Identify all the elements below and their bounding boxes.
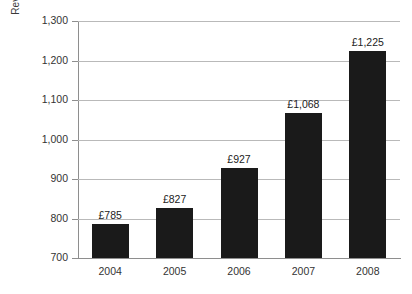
y-tick-label: 1,200 [22,55,68,66]
x-axis-line [78,258,401,259]
gridline [78,21,400,22]
x-tick-label: 2005 [140,265,210,277]
bar[interactable] [156,208,193,258]
y-tick-label: 700 [22,252,68,263]
y-tick-label: 1,000 [22,134,68,145]
bar-value-label: £927 [204,153,274,165]
bar-value-label: £1,225 [333,36,403,48]
y-axis-title: Revenue Oustanding (£m) [9,0,23,61]
bar-value-label: £785 [75,209,145,221]
bar[interactable] [285,113,322,258]
bar[interactable] [349,51,386,258]
x-tick-label: 2008 [333,265,403,277]
bar-chart: Revenue Oustanding (£m) 700 800 900 1,00… [0,0,412,294]
plot-area [78,21,400,258]
bar[interactable] [221,168,258,258]
x-tick-label: 2007 [268,265,338,277]
bar[interactable] [92,224,129,258]
y-tick-label: 1,300 [22,15,68,26]
bar-value-label: £827 [140,193,210,205]
y-tick-label: 800 [22,213,68,224]
x-tick-label: 2006 [204,265,274,277]
y-tick-label: 1,100 [22,94,68,105]
bar-value-label: £1,068 [268,98,338,110]
x-tick-label: 2004 [75,265,145,277]
y-tick-label: 900 [22,173,68,184]
